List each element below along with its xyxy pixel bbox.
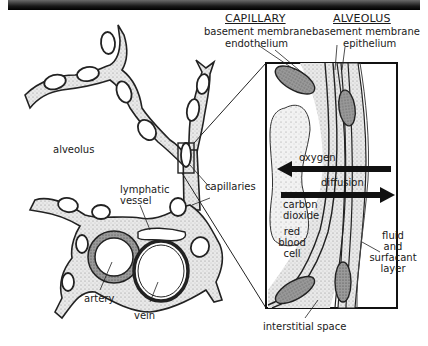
alveolar-capillary-diagram [0, 0, 428, 346]
vein [134, 241, 188, 301]
fluid-surfacant-layer-label: fluid and surfacant layer [363, 230, 423, 274]
surfacant-text: surfacant [363, 252, 423, 263]
oxygen-label: oxygen [299, 152, 335, 163]
vessel-label: vessel [120, 195, 151, 206]
blood-text: blood [275, 237, 309, 248]
diffusion-label: diffusion [321, 177, 364, 188]
vein-label: vein [134, 310, 155, 321]
capillaries-label: capillaries [205, 181, 256, 192]
fluid-text: fluid [363, 230, 423, 241]
red-text: red [275, 226, 309, 237]
capillary-basement-membrane-label: basement membrane [204, 26, 312, 37]
endothelium-label: endothelium [225, 38, 288, 49]
dioxide-text: dioxide [283, 210, 313, 221]
red-blood-cell-label: red blood cell [275, 226, 309, 259]
carbon-text: carbon [283, 199, 313, 210]
artery-label: artery [84, 293, 114, 304]
carbon-dioxide-label: carbon dioxide [283, 199, 313, 221]
and-text: and [363, 241, 423, 252]
alveolus-label: alveolus [53, 144, 94, 155]
artery [88, 231, 140, 283]
lymphatic-vessel [138, 228, 186, 241]
capillary-header: CAPILLARY [225, 13, 286, 24]
layer-text: layer [363, 263, 423, 274]
cell-text: cell [275, 248, 309, 259]
interstitial-space-label: interstitial space [263, 321, 346, 332]
alveolus-basement-membrane-label: basement membrane [312, 26, 420, 37]
lymphatic-label: lymphatic [120, 184, 169, 195]
epithelium-label: epithelium [343, 38, 396, 49]
alveolus-header: ALVEOLUS [333, 13, 391, 24]
